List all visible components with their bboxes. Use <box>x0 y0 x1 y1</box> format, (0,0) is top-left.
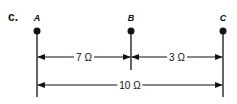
resistance-label-ab: 7 Ω <box>74 52 94 63</box>
node-label-b: B <box>128 13 135 23</box>
terminal-dot-c <box>220 28 227 35</box>
part-label: c. <box>8 10 18 24</box>
terminal-dot-b <box>128 28 135 35</box>
terminal-dot-a <box>34 28 41 35</box>
resistance-label-ac: 10 Ω <box>117 80 142 91</box>
resistance-label-bc: 3 Ω <box>167 52 187 63</box>
node-label-a: A <box>34 13 41 23</box>
node-label-c: C <box>220 13 227 23</box>
